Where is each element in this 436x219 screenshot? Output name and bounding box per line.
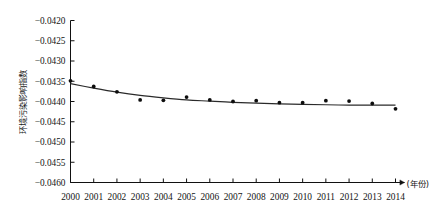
x-tick-label: 2014 — [386, 192, 405, 202]
data-point — [231, 100, 235, 104]
data-point — [254, 99, 258, 103]
data-point — [185, 95, 189, 99]
x-tick-label: 2008 — [247, 192, 266, 202]
y-tick-label: −0.0440 — [35, 97, 66, 107]
y-tick-label: −0.0420 — [35, 16, 66, 26]
y-tick-label: −0.0450 — [35, 137, 66, 147]
x-tick-label: 2009 — [270, 192, 289, 202]
x-tick-label: 2010 — [293, 192, 312, 202]
x-axis-ticks: 2000200120022003200420052006200720082009… — [61, 179, 405, 202]
chart-container: −0.0420−0.0425−0.0430−0.0435−0.0440−0.04… — [0, 0, 436, 219]
y-tick-label: −0.0445 — [35, 117, 66, 127]
x-tick-label: 2004 — [154, 192, 173, 202]
data-point — [370, 102, 374, 106]
x-tick-label: 2002 — [108, 192, 127, 202]
data-point — [69, 79, 73, 83]
data-point — [347, 99, 351, 103]
x-tick-label: 2000 — [61, 192, 80, 202]
data-point — [115, 90, 119, 94]
x-axis-arrow-icon — [400, 180, 405, 185]
x-tick-label: 2013 — [363, 192, 382, 202]
x-tick-label: 2007 — [224, 192, 243, 202]
y-tick-label: −0.0435 — [35, 77, 66, 87]
data-point — [394, 107, 398, 111]
data-point — [92, 85, 96, 89]
y-axis-label: 环境污染影响指数 — [18, 70, 28, 134]
x-axis-unit-label: (年份) — [407, 179, 430, 189]
data-point-group — [69, 79, 398, 111]
data-point — [278, 101, 282, 105]
data-point — [161, 98, 165, 102]
x-tick-label: 2005 — [177, 192, 196, 202]
x-tick-label: 2003 — [131, 192, 150, 202]
y-axis-ticks: −0.0420−0.0425−0.0430−0.0435−0.0440−0.04… — [35, 16, 75, 188]
data-point — [301, 101, 305, 105]
data-point — [208, 98, 212, 102]
x-tick-label: 2012 — [340, 192, 359, 202]
x-tick-label: 2006 — [200, 192, 219, 202]
environmental-pollution-index-chart: −0.0420−0.0425−0.0430−0.0435−0.0440−0.04… — [0, 0, 436, 219]
y-tick-label: −0.0425 — [35, 36, 66, 46]
x-tick-label: 2011 — [317, 192, 336, 202]
x-tick-label: 2001 — [84, 192, 103, 202]
data-point — [324, 99, 328, 103]
y-tick-label: −0.0460 — [35, 178, 66, 188]
data-point — [138, 98, 142, 102]
y-tick-label: −0.0430 — [35, 56, 66, 66]
y-tick-label: −0.0455 — [35, 158, 66, 168]
